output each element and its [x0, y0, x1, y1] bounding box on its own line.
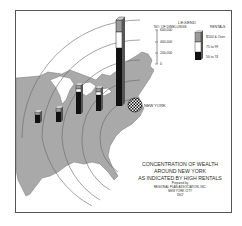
- bar-region-3: [56, 106, 63, 122]
- map-title-line: CONCENTRATION OF WEALTH: [128, 162, 232, 167]
- legend-scale-tick: 200,000: [160, 51, 172, 55]
- map-title-line: AS INDICATED BY HIGH RENTALS: [128, 176, 232, 181]
- bar-new-york: [116, 17, 125, 106]
- new-york-label: NEW YORK: [144, 103, 166, 108]
- map-title-block: CONCENTRATION OF WEALTH AROUND NEW YORK …: [128, 162, 232, 197]
- legend-scale-tick: 0: [160, 62, 162, 66]
- legend-category-label: $100 & Over: [206, 35, 225, 39]
- map-figure: LEGEND NO. OF DWELLINGS 600,000 400,000 …: [0, 0, 242, 226]
- new-york-marker: [128, 98, 142, 112]
- bar-region-2: [96, 86, 103, 111]
- legend-category-label: 50 to 74: [206, 55, 218, 59]
- legend-category-label: 75 to 99: [206, 45, 218, 49]
- bar-region-1: [76, 83, 83, 114]
- legend-rentals-title: RENTALS: [210, 25, 225, 29]
- year: 1947: [128, 194, 232, 197]
- map-title-line: AROUND NEW YORK: [128, 169, 232, 174]
- bar-region-4: [35, 110, 42, 123]
- legend-scale-tick: 600,000: [160, 28, 172, 32]
- legend-scale-tick: 400,000: [160, 40, 172, 44]
